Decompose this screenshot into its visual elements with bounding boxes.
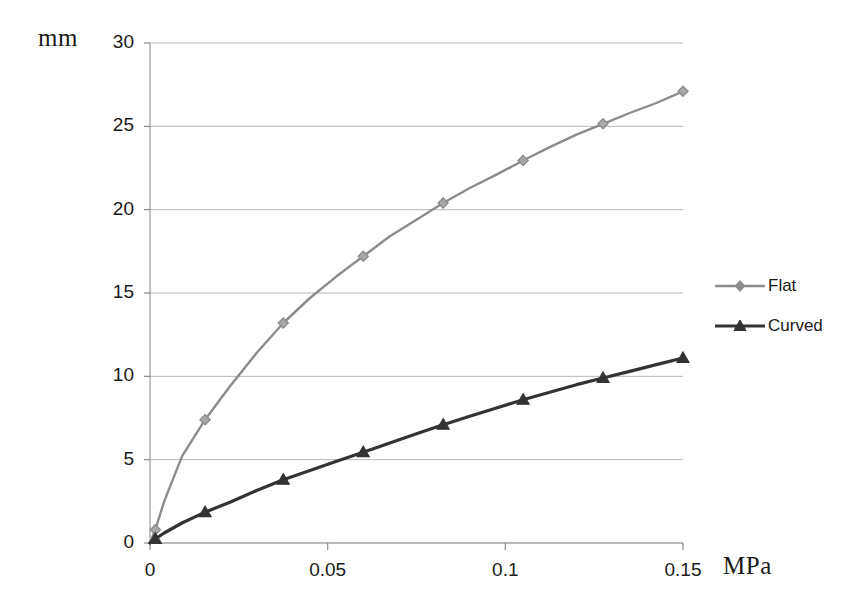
- marker-flat: [518, 156, 528, 166]
- marker-flat: [598, 119, 608, 129]
- chart-page: mm MPa 051015202530 00.050.10.15 Flat: [0, 0, 861, 616]
- series-flat: [150, 86, 688, 543]
- legend-swatch-flat: [714, 277, 766, 295]
- data-series-layer: [149, 86, 689, 543]
- marker-curved: [677, 352, 689, 363]
- series-line-flat: [150, 91, 683, 543]
- series-curved: [149, 352, 689, 543]
- legend-item-curved: Curved: [714, 306, 854, 346]
- legend-swatch-curved: [714, 317, 766, 335]
- legend-item-flat: Flat: [714, 266, 854, 306]
- legend-label-flat: Flat: [768, 276, 796, 296]
- marker-flat: [678, 86, 688, 96]
- legend-label-curved: Curved: [768, 316, 823, 336]
- chart-legend: Flat Curved: [714, 266, 854, 346]
